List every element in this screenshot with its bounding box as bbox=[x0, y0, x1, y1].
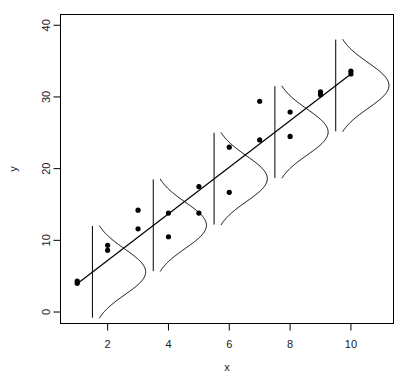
x-tick-label: 8 bbox=[287, 338, 293, 350]
y-axis-title: y bbox=[7, 166, 19, 172]
x-tick-label: 4 bbox=[165, 338, 171, 350]
y-tick-label: 40 bbox=[41, 19, 53, 31]
x-tick-label: 6 bbox=[226, 338, 232, 350]
data-point bbox=[257, 137, 262, 142]
data-point bbox=[288, 109, 293, 114]
regression-density-plot: 010203040 246810 x y bbox=[0, 0, 404, 382]
data-point bbox=[135, 226, 140, 231]
data-point bbox=[196, 184, 201, 189]
data-point bbox=[227, 145, 232, 150]
data-point bbox=[288, 134, 293, 139]
data-point bbox=[318, 89, 323, 94]
data-point bbox=[135, 208, 140, 213]
y-tick-label: 30 bbox=[40, 91, 52, 103]
y-tick-label: 0 bbox=[41, 309, 53, 315]
data-point bbox=[166, 234, 171, 239]
data-point bbox=[227, 190, 232, 195]
data-point bbox=[75, 279, 80, 284]
data-point bbox=[196, 210, 201, 215]
chart-canvas: 010203040 246810 x y bbox=[0, 0, 404, 382]
data-point bbox=[105, 243, 110, 248]
y-tick-label: 20 bbox=[41, 163, 53, 175]
data-point bbox=[105, 248, 110, 253]
data-point bbox=[166, 210, 171, 215]
y-tick-label: 10 bbox=[41, 234, 53, 246]
x-axis-title: x bbox=[224, 361, 230, 373]
data-point bbox=[348, 69, 353, 74]
data-point bbox=[257, 99, 262, 104]
x-tick-label: 10 bbox=[345, 338, 357, 350]
x-tick-label: 2 bbox=[105, 338, 111, 350]
